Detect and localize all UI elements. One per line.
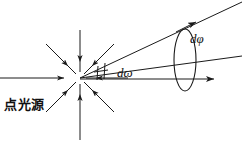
point-source-label: 点光源	[4, 98, 45, 111]
ray-tail-upper-left	[68, 66, 76, 74]
plane-angle-label: dφ	[190, 32, 204, 45]
radiating-rays-group	[0, 30, 128, 140]
solid-angle-label: dω	[117, 66, 133, 79]
ray-lower-right	[92, 90, 114, 112]
ray-lower-left	[46, 90, 68, 112]
ray-upper-right	[92, 44, 114, 66]
ray-tail-lower-right	[84, 82, 92, 90]
ray-tail-lower-left	[68, 82, 76, 90]
figure-point-source-solid-angle: 点光源 dω dφ	[0, 0, 242, 142]
ray-upper-left	[46, 44, 68, 66]
